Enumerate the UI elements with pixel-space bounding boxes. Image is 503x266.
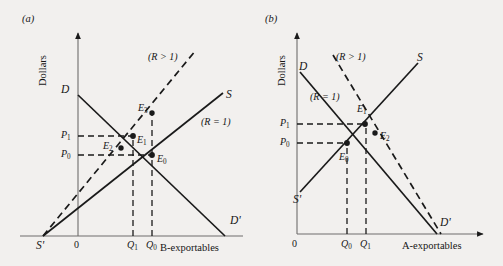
panel-a-price-p0-sub: 0 — [67, 153, 71, 161]
panel-a-demand-end-label: D' — [230, 215, 241, 227]
panel-b-quantity-q0-sub: 0 — [348, 243, 352, 251]
panel-b-quantity-q1-tick: Q1 — [360, 239, 371, 251]
point-e2-b — [372, 130, 377, 135]
panel-a-supply-label: S — [226, 89, 232, 101]
panel-a-price-p0-tick: P0 — [61, 149, 71, 161]
panel-a-supply-start-label: S' — [36, 240, 44, 252]
panel-b-supply-label: S — [417, 52, 423, 64]
panel-b-price-p0-tick: P0 — [280, 137, 290, 149]
panel-b-guidelines — [297, 124, 366, 234]
panel-b-quantity-q1-sub: 1 — [367, 243, 371, 251]
panel-a-demand-label: D — [61, 84, 69, 96]
panel-a-point-e1-label: E1 — [137, 135, 147, 147]
panel-b-point-e1-label: E1 — [357, 104, 367, 116]
figure-canvas — [0, 0, 503, 266]
point-e0-a — [149, 152, 155, 158]
panel-b-y-axis-title: Dollars — [277, 55, 288, 86]
panel-b-quantity-q0-tick: Q0 — [341, 239, 352, 251]
curve-supply-r-greater-1-a — [43, 50, 196, 236]
panel-a-point-e3-label: E3 — [138, 103, 148, 115]
panel-a-point-e2-label: E2 — [103, 141, 113, 153]
panel-b-price-p1-sub: 1 — [286, 122, 290, 130]
panel-a-point-e2-sub: 2 — [109, 145, 113, 153]
panel-a-price-p1-sub: 1 — [67, 134, 71, 142]
panel-a-point-e0-sub: 0 — [163, 158, 167, 166]
panel-b-price-p0-sub: 0 — [286, 141, 290, 149]
panel-a-price-p1-tick: P1 — [61, 130, 71, 142]
panel-a-quantity-q1-sub: 1 — [134, 244, 138, 252]
point-e2-a — [118, 145, 123, 150]
point-e0-b — [344, 140, 350, 146]
panel-b-origin-label: 0 — [292, 239, 297, 249]
panel-b-price-p1-tick: P1 — [280, 118, 290, 130]
panel-b-point-e2-sub: 2 — [386, 135, 390, 143]
panel-b-point-e0-sub: 0 — [345, 156, 349, 164]
panel-b-regime-r-equals-1-label: (R = 1) — [310, 92, 340, 102]
panel-a-point-e0-label: E0 — [157, 154, 167, 166]
point-e1-b — [362, 121, 368, 127]
panel-a-caption: (a) — [22, 14, 34, 25]
panel-a-curves — [43, 50, 225, 236]
panel-a-quantity-q0-tick: Q0 — [146, 240, 157, 252]
panel-b-curves — [300, 55, 441, 234]
economics-figure: (a) Dollars B-exportables 0 D D' S S' (R… — [0, 0, 503, 266]
panel-b-x-axis-title: A-exportables — [402, 241, 461, 252]
panel-a-x-axis-title: B-exportables — [160, 243, 219, 254]
point-e1-a — [130, 133, 136, 139]
panel-b-point-e1-sub: 1 — [363, 108, 367, 116]
panel-a-quantity-q0-sub: 0 — [153, 244, 157, 252]
curve-supply-b — [300, 63, 418, 192]
panel-b-point-e0-label: E0 — [339, 152, 349, 164]
panel-b-axes — [297, 33, 483, 234]
panel-a-y-axis-title: Dollars — [38, 55, 49, 86]
panel-b-regime-r-greater-1-label: (R > 1) — [336, 52, 366, 62]
point-e3-a — [149, 110, 154, 115]
panel-a-quantity-q1-tick: Q1 — [127, 240, 138, 252]
panel-b-caption: (b) — [265, 14, 277, 25]
panel-b-demand-end-label: D' — [440, 217, 451, 229]
panel-b-supply-start-label: S' — [293, 194, 301, 206]
panel-a-point-e3-sub: 3 — [144, 107, 148, 115]
panel-b-demand-label: D — [299, 61, 307, 73]
panel-a-origin-label: 0 — [74, 240, 79, 250]
panel-a-point-e1-sub: 1 — [143, 139, 147, 147]
panel-a-regime-r-equals-1-label: (R = 1) — [201, 117, 231, 127]
panel-b-point-e2-label: E2 — [380, 131, 390, 143]
panel-a-regime-r-greater-1-label: (R > 1) — [148, 52, 178, 62]
